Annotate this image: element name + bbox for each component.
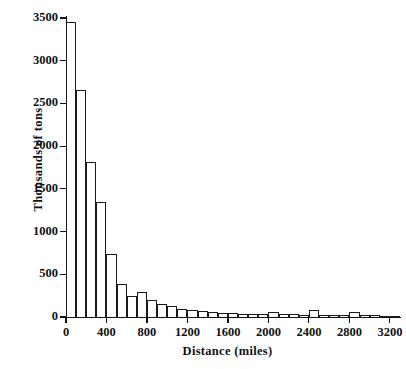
y-axis-tick-label: 3000: [0, 53, 58, 68]
y-axis-tick-label: 1000: [0, 224, 58, 239]
histogram-figure: Thousands of tons Distance (miles) 05001…: [0, 0, 406, 369]
histogram-bar: [319, 315, 329, 317]
y-axis-tick-label: 3500: [0, 10, 58, 25]
x-axis-tick: [106, 317, 107, 323]
y-axis-tick-label: 0: [0, 309, 58, 324]
x-axis-tick: [268, 317, 269, 323]
histogram-bar: [390, 316, 400, 317]
histogram-bar: [279, 314, 289, 317]
histogram-bar: [177, 309, 187, 317]
histogram-bar: [167, 306, 177, 317]
histogram-bar: [349, 312, 359, 317]
histogram-bar: [238, 314, 248, 317]
histogram-bar: [228, 313, 238, 317]
histogram-bar: [198, 311, 208, 317]
histogram-bar: [248, 314, 258, 317]
histogram-bar: [76, 90, 86, 317]
y-axis-tick-label: 1500: [0, 181, 58, 196]
histogram-bar: [127, 296, 137, 317]
histogram-bar: [360, 315, 370, 317]
histogram-bar: [208, 312, 218, 317]
histogram-bar: [66, 22, 76, 317]
y-axis-tick-label: 2500: [0, 95, 58, 110]
x-axis-tick: [308, 317, 309, 323]
histogram-bar: [117, 284, 127, 317]
histogram-bar: [157, 304, 167, 317]
histogram-bar: [218, 313, 228, 317]
x-axis-tick-label: 3200: [360, 325, 406, 340]
y-axis-tick-label: 2000: [0, 138, 58, 153]
histogram-bar: [329, 315, 339, 317]
histogram-bar: [147, 300, 157, 317]
histogram-bar: [106, 254, 116, 317]
y-axis-tick-label: 500: [0, 266, 58, 281]
histogram-bar: [137, 292, 147, 317]
x-axis-tick: [227, 317, 228, 323]
histogram-bar: [187, 310, 197, 317]
x-axis-title: Distance (miles): [55, 344, 400, 359]
x-axis-tick: [349, 317, 350, 323]
plot-area: [66, 18, 400, 317]
x-axis-tick: [187, 317, 188, 323]
histogram-bar: [299, 315, 309, 317]
x-axis-tick: [65, 317, 66, 323]
histogram-bar: [380, 316, 390, 317]
histogram-bar: [258, 314, 268, 317]
histogram-bar: [370, 315, 380, 317]
histogram-bar: [309, 310, 319, 317]
histogram-bar: [339, 315, 349, 317]
x-axis-tick: [146, 317, 147, 323]
histogram-bar: [289, 314, 299, 317]
histogram-bar: [86, 162, 96, 317]
x-axis-tick: [389, 317, 390, 323]
histogram-bar: [96, 202, 106, 317]
histogram-bar: [268, 312, 278, 317]
